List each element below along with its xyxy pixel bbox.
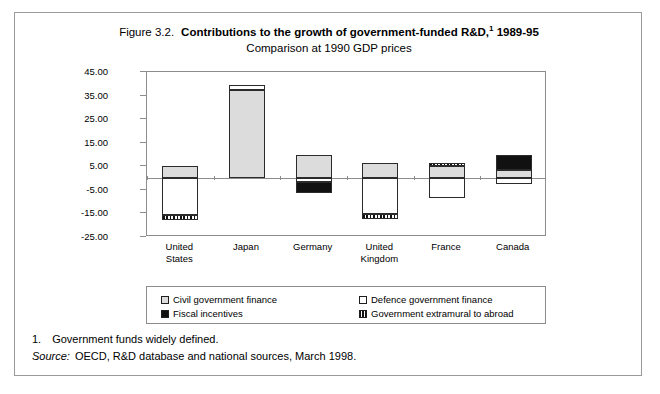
chart-legend: Civil government financeDefence governme… <box>146 286 546 324</box>
bar-segment-fiscal[interactable] <box>496 155 532 170</box>
bar-segment-defence[interactable] <box>162 178 198 215</box>
bar-segment-civil[interactable] <box>296 155 332 179</box>
bar-segment-fiscal[interactable] <box>296 182 332 193</box>
legend-label: Government extramural to abroad <box>371 308 514 319</box>
source-note: Source:OECD, R&D database and national s… <box>32 350 356 362</box>
bar-segment-defence[interactable] <box>229 85 265 90</box>
x-axis-tick-mark <box>280 176 281 180</box>
x-axis-tick-mark <box>347 176 348 180</box>
y-axis-tick-label: 15.00 <box>60 136 108 147</box>
x-axis-category-label: Canada <box>473 241 553 253</box>
plot-area <box>146 71 546 236</box>
footnote-text: Government funds widely defined. <box>52 333 218 345</box>
legend-item-fiscal[interactable]: Fiscal incentives <box>161 308 243 319</box>
y-axis-tick-label: 35.00 <box>60 89 108 100</box>
bar-group[interactable] <box>362 72 398 235</box>
legend-swatch-fiscal <box>161 310 169 318</box>
bar-segment-extramural[interactable] <box>429 163 465 166</box>
footnote: 1.Government funds widely defined. <box>32 333 219 345</box>
bar-segment-defence[interactable] <box>362 178 398 214</box>
legend-item-civil[interactable]: Civil government finance <box>161 294 277 305</box>
legend-label: Civil government finance <box>173 294 277 305</box>
x-axis-tick-mark <box>147 176 148 180</box>
footnote-number: 1. <box>32 333 41 345</box>
legend-swatch-civil <box>161 296 169 304</box>
bar-segment-civil[interactable] <box>429 166 465 178</box>
figure-frame: Figure 3.2.Contributions to the growth o… <box>14 12 642 376</box>
zero-baseline <box>147 178 545 179</box>
bar-segment-extramural[interactable] <box>162 215 198 220</box>
legend-swatch-extramural <box>359 310 367 318</box>
y-axis-tick-label: -25.00 <box>60 231 108 242</box>
bar-group[interactable] <box>496 72 532 235</box>
legend-label: Defence government finance <box>371 294 492 305</box>
bar-segment-civil[interactable] <box>229 90 265 178</box>
x-axis-tick-mark <box>414 176 415 180</box>
x-axis-tick-mark <box>480 176 481 180</box>
y-axis-tick-label: 45.00 <box>60 66 108 77</box>
legend-swatch-defence <box>359 296 367 304</box>
legend-label: Fiscal incentives <box>173 308 243 319</box>
source-label: Source: <box>32 350 70 362</box>
bar-segment-defence[interactable] <box>429 178 465 198</box>
bar-group[interactable] <box>296 72 332 235</box>
y-axis-tick-label: 5.00 <box>60 160 108 171</box>
bar-group[interactable] <box>162 72 198 235</box>
y-axis-tick-mark <box>140 236 146 237</box>
bar-segment-civil[interactable] <box>496 170 532 178</box>
legend-item-extramural[interactable]: Government extramural to abroad <box>359 308 514 319</box>
legend-item-defence[interactable]: Defence government finance <box>359 294 492 305</box>
bar-segment-defence[interactable] <box>496 178 532 184</box>
y-axis-tick-label: -5.00 <box>60 183 108 194</box>
bar-group[interactable] <box>229 72 265 235</box>
x-axis-tick-mark <box>214 176 215 180</box>
y-axis-tick-label: 25.00 <box>60 113 108 124</box>
bar-segment-civil[interactable] <box>362 163 398 179</box>
bar-segment-extramural[interactable] <box>362 214 398 219</box>
y-axis-tick-label: -15.00 <box>60 207 108 218</box>
bar-group[interactable] <box>429 72 465 235</box>
bar-segment-civil[interactable] <box>162 166 198 178</box>
source-text: OECD, R&D database and national sources,… <box>75 350 356 362</box>
